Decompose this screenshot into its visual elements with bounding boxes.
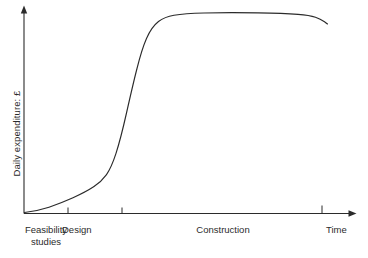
x-axis-arrowhead-icon [349, 210, 357, 216]
y-axis-arrowhead-icon [21, 6, 27, 14]
x-axis-phase-label-design: Design [62, 224, 128, 236]
phase-label-feasibility-line2: studies [8, 236, 84, 248]
chart-plot-area [0, 0, 368, 258]
x-axis-label-time: Time [326, 224, 366, 236]
expenditure-s-curve-figure: Daily expenditure: £ Feasibility studies… [0, 0, 368, 258]
x-axis-phase-label-construction: Construction [180, 224, 266, 236]
y-axis-label: Daily expenditure: £ [11, 74, 22, 194]
expenditure-curve [25, 13, 328, 213]
